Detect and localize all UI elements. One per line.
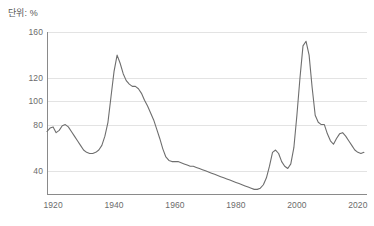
x-tick-label-1920: 1920: [43, 200, 62, 210]
x-tick-label-1980: 1980: [226, 200, 245, 210]
grid-line-120: [47, 78, 367, 79]
x-axis-line: [47, 194, 367, 195]
y-axis-line: [47, 32, 48, 195]
y-tick-label-100: 100: [3, 96, 43, 106]
y-tick-label-160: 160: [3, 27, 43, 37]
unit-label: 단위: %: [8, 6, 38, 19]
grid-line-100: [47, 101, 367, 102]
x-tick-label-1940: 1940: [104, 200, 123, 210]
y-tick-label-40: 40: [3, 166, 43, 176]
grid-line-160: [47, 32, 367, 33]
chart-container: 단위: % 4080100120160 19201940196019802000…: [0, 0, 374, 226]
x-tick-label-2000: 2000: [287, 200, 306, 210]
grid-line-40: [47, 171, 367, 172]
y-tick-label-80: 80: [3, 120, 43, 130]
x-tick-label-1960: 1960: [165, 200, 184, 210]
grid-line-80: [47, 125, 367, 126]
y-tick-label-120: 120: [3, 73, 43, 83]
x-tick-label-2020: 2020: [348, 200, 367, 210]
grid-lines: [47, 32, 367, 194]
